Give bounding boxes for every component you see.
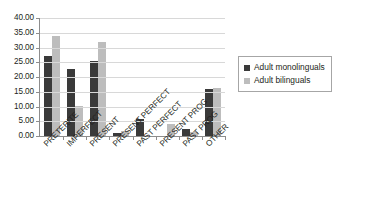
y-axis: 40.0035.0030.0025.0020.0015.0010.005.000…: [0, 10, 36, 136]
gridline: [40, 77, 225, 78]
legend-swatch-icon: [244, 78, 250, 84]
y-tick-label: 5.00: [18, 117, 34, 125]
gridline: [40, 33, 225, 34]
legend-swatch-icon: [244, 65, 250, 71]
gridline: [40, 18, 225, 19]
y-tick-label: 35.00: [14, 29, 34, 37]
legend-item[interactable]: Adult monolinguals: [244, 61, 325, 74]
y-tick-label: 25.00: [14, 58, 34, 66]
y-tick-label: 0.00: [18, 132, 34, 140]
y-tick-label: 10.00: [14, 103, 34, 111]
y-tick-label: 15.00: [14, 88, 34, 96]
legend-label: Adult bilinguals: [254, 76, 310, 85]
legend-item[interactable]: Adult bilinguals: [244, 74, 325, 87]
gridline: [40, 92, 225, 93]
y-tick-label: 40.00: [14, 14, 34, 22]
x-axis-labels: PRETERITEIMPERFECTPRESENTPRESENT PERFECT…: [39, 124, 239, 212]
gridline: [40, 62, 225, 63]
bar-chart: 40.0035.0030.0025.0020.0015.0010.005.000…: [0, 0, 365, 213]
y-tick-label: 20.00: [14, 73, 34, 81]
y-tick-label: 30.00: [14, 44, 34, 52]
legend-label: Adult monolinguals: [254, 63, 325, 72]
gridline: [40, 48, 225, 49]
legend: Adult monolingualsAdult bilinguals: [238, 56, 332, 92]
